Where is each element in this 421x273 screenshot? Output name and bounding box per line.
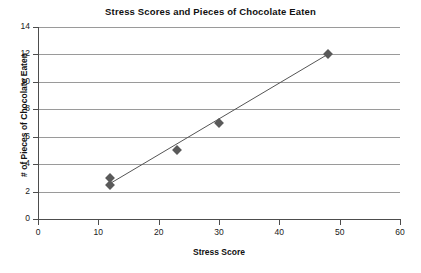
y-axis-title: # of Pieces of Chocolate Eaten xyxy=(19,25,29,205)
trend-line-layer xyxy=(0,0,421,273)
x-axis-title: Stress Score xyxy=(38,247,400,257)
scatter-chart: Stress Scores and Pieces of Chocolate Ea… xyxy=(0,0,421,273)
